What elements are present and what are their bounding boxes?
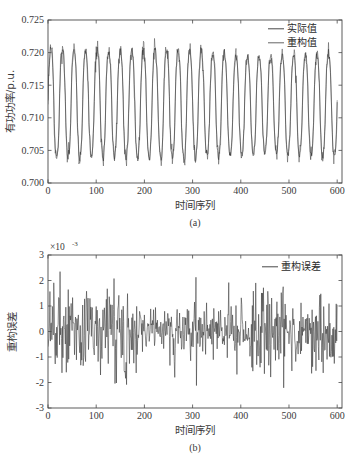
x-tick-label: 100 (89, 185, 104, 196)
exponent-base: ×10 (50, 242, 65, 252)
y-tick-label: 0.720 (22, 47, 45, 58)
x-tick-label: 0 (46, 185, 51, 196)
legend-label-1: 重构值 (287, 36, 317, 48)
y-tick-label: -2 (36, 377, 44, 388)
x-tick-label: 300 (185, 185, 200, 196)
legend-label-0: 实际值 (287, 22, 317, 34)
x-tick-label: 600 (330, 185, 345, 196)
y-tick-label: 0.710 (22, 112, 45, 123)
y-tick-label: 0.705 (22, 145, 45, 156)
panel-a-plot: 01002003004005006000.7000.7050.7100.7150… (0, 0, 357, 230)
axis-exponent-multiplier: ×10-3 (50, 240, 78, 252)
x-tick-label: 600 (330, 410, 345, 421)
y-tick-label: 0 (39, 326, 44, 337)
x-axis-title: 时间序列 (175, 424, 215, 436)
panel-b-axes-box (48, 255, 342, 408)
y-tick-label: -1 (36, 351, 44, 362)
x-tick-label: 500 (281, 185, 296, 196)
x-tick-label: 100 (89, 410, 104, 421)
y-tick-label: 3 (39, 249, 44, 260)
y-axis-title: 有功功率/p.u. (4, 70, 16, 134)
x-tick-label: 300 (185, 410, 200, 421)
y-tick-label: -3 (36, 402, 44, 413)
y-tick-label: 2 (39, 275, 44, 286)
x-tick-label: 500 (281, 410, 296, 421)
x-tick-label: 200 (137, 410, 152, 421)
x-tick-label: 0 (46, 410, 51, 421)
chart-panel-b: 0100200300400500600-3-2-10123×10-3时间序列重构… (0, 230, 357, 461)
exponent-power: -3 (72, 240, 78, 248)
figure-container: 01002003004005006000.7000.7050.7100.7150… (0, 0, 357, 461)
y-tick-label: 0.700 (22, 177, 45, 188)
y-tick-label: 1 (39, 300, 44, 311)
subplot-caption-a: (a) (189, 217, 200, 229)
chart-panel-a: 01002003004005006000.7000.7050.7100.7150… (0, 0, 357, 230)
series-line-reconstruction-error (48, 272, 337, 388)
x-axis-title: 时间序列 (175, 199, 215, 211)
y-axis-title: 重构误差 (6, 312, 18, 352)
x-tick-label: 200 (137, 185, 152, 196)
subplot-caption-b: (b) (189, 442, 201, 454)
x-tick-label: 400 (233, 185, 248, 196)
legend-label-0: 重构误差 (281, 260, 321, 272)
panel-b-plot: 0100200300400500600-3-2-10123×10-3时间序列重构… (0, 230, 357, 461)
series-line-actual (48, 47, 337, 163)
x-tick-label: 400 (233, 410, 248, 421)
y-tick-label: 0.715 (22, 80, 45, 91)
y-tick-label: 0.725 (22, 14, 45, 25)
